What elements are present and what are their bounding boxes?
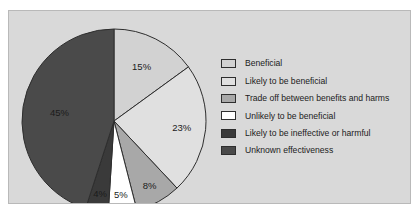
legend-swatch-likely-beneficial [221,77,236,86]
legend-swatch-ineffective-harmful [221,129,236,138]
legend-swatch-trade-off [221,94,236,103]
pie-slice-value-label: 23% [172,122,192,133]
legend-label-beneficial: Beneficial [245,59,282,68]
pie-slice-value-label: 15% [132,61,152,72]
legend-label-likely-beneficial: Likely to be beneficial [245,77,327,86]
legend-label-trade-off: Trade off between benefits and harms [245,94,389,103]
chart-panel: 15%23%8%5%4%45% Beneficial Likely to be … [8,10,411,204]
pie-chart: 15%23%8%5%4%45% [18,17,214,203]
legend-swatch-beneficial [221,59,236,68]
chart-legend: Beneficial Likely to be beneficial Trade… [221,55,411,159]
legend-swatch-unknown-effectiveness [221,146,236,155]
legend-item[interactable]: Unknown effectiveness [221,142,411,159]
pie-slice-value-label: 45% [50,107,70,118]
pie-slice-value-label: 5% [114,189,128,200]
legend-label-unlikely-beneficial: Unlikely to be beneficial [245,112,335,121]
pie-chart-svg: 15%23%8%5%4%45% [18,17,214,203]
legend-item[interactable]: Beneficial [221,55,411,72]
legend-label-unknown-effectiveness: Unknown effectiveness [245,146,333,155]
legend-item[interactable]: Likely to be beneficial [221,72,411,89]
legend-label-ineffective-harmful: Likely to be ineffective or harmful [245,129,370,138]
legend-item[interactable]: Unlikely to be beneficial [221,107,411,124]
legend-item[interactable]: Trade off between benefits and harms [221,90,411,107]
pie-slice-value-label: 4% [93,188,107,199]
pie-chart-figure: 15%23%8%5%4%45% Beneficial Likely to be … [0,0,419,216]
pie-slice-value-label: 8% [143,180,157,191]
legend-swatch-unlikely-beneficial [221,111,236,120]
legend-item[interactable]: Likely to be ineffective or harmful [221,125,411,142]
